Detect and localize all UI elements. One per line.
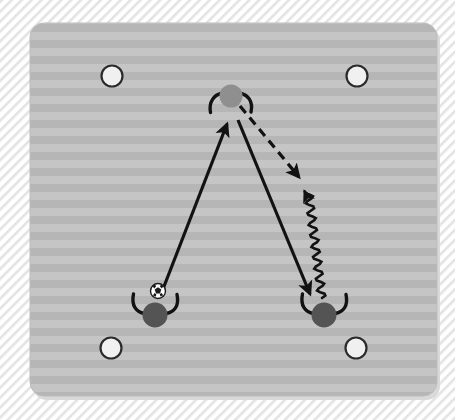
player-body: [220, 85, 243, 108]
training-field: [30, 23, 437, 396]
cone-bottom-left[interactable]: [101, 338, 122, 359]
drill-diagram-canvas: [0, 0, 455, 420]
cone-top-right[interactable]: [347, 66, 368, 87]
player-body: [312, 303, 337, 328]
cone-top-left[interactable]: [102, 66, 123, 87]
cone-bottom-right[interactable]: [346, 338, 367, 359]
player-body: [143, 303, 168, 328]
pitch-layer: [0, 0, 455, 420]
pitch-surface: [30, 23, 437, 396]
soccer-ball[interactable]: [151, 284, 166, 299]
